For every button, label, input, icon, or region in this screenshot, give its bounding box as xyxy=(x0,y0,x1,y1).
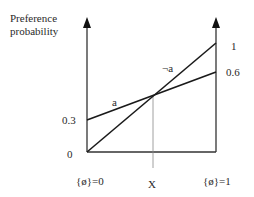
x-label-middle: X xyxy=(148,178,156,190)
x-label-right: {ø}=1 xyxy=(203,175,231,187)
left-axis-arrow-icon xyxy=(83,17,91,28)
left-tick-lower: 0 xyxy=(67,148,73,160)
line-not-a xyxy=(87,43,216,152)
right-axis-arrow-icon xyxy=(212,17,220,28)
y-axis-label-line2: probability xyxy=(10,25,58,37)
line-a xyxy=(87,72,216,120)
right-tick-upper: 1 xyxy=(231,40,237,52)
left-tick-upper: 0.3 xyxy=(62,114,76,126)
x-label-left: {ø}=0 xyxy=(76,175,104,187)
line-a-label: a xyxy=(112,96,117,108)
y-axis-label-line1: Preference xyxy=(10,12,57,24)
right-tick-lower: 0.6 xyxy=(226,66,240,78)
line-not-a-label: ¬a xyxy=(162,62,173,74)
